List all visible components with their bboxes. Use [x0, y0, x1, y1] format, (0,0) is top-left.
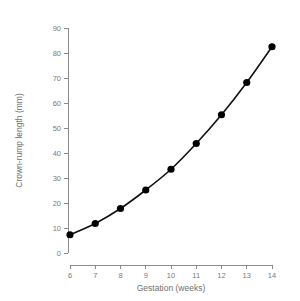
y-axis-tick-label: 90 — [53, 24, 61, 33]
x-axis-tick-label: 12 — [217, 271, 225, 280]
data-point-marker: 12 weeks, 55.3 mm — [218, 111, 225, 118]
data-point-marker: 7 weeks, 11.8 mm — [92, 220, 99, 227]
x-axis-tick-label: 10 — [167, 271, 175, 280]
y-axis-tick-label: 70 — [53, 74, 61, 83]
x-axis-tick-label: 14 — [268, 271, 276, 280]
y-axis-tick-label: 50 — [53, 124, 61, 133]
chart-container: 010203040506070809067891011121314Gestati… — [0, 0, 300, 301]
y-axis-tick-label: 30 — [53, 174, 61, 183]
data-point-marker: 13 weeks, 68.2 mm — [243, 79, 250, 86]
data-point-marker: 10 weeks, 33.5 mm — [167, 166, 174, 173]
y-axis-tick-label: 0 — [57, 249, 61, 258]
x-axis-tick-label: 13 — [243, 271, 251, 280]
x-axis-tick-label: 9 — [144, 271, 148, 280]
data-series-line — [70, 47, 272, 235]
x-axis-tick-label: 8 — [118, 271, 122, 280]
y-axis-tick-label: 80 — [53, 49, 61, 58]
data-point-marker: 6 weeks, 7.3 mm — [66, 231, 73, 238]
data-point-marker: 8 weeks, 17.8 mm — [117, 205, 124, 212]
y-axis-tick-label: 20 — [53, 199, 61, 208]
line-chart: 010203040506070809067891011121314Gestati… — [0, 0, 300, 301]
x-axis-tick-label: 7 — [93, 271, 97, 280]
x-axis-tick-label: 6 — [68, 271, 72, 280]
x-axis-title: Gestation (weeks) — [137, 283, 206, 293]
data-point-marker: 14 weeks, 82.5 mm — [268, 43, 275, 50]
x-axis: 67891011121314 — [68, 265, 276, 280]
y-axis-tick-label: 60 — [53, 99, 61, 108]
data-point-marker: 11 weeks, 43.8 mm — [193, 140, 200, 147]
y-axis-title: Crown-rump length (mm) — [14, 93, 24, 188]
y-axis-tick-label: 40 — [53, 149, 61, 158]
x-axis-tick-label: 11 — [192, 271, 200, 280]
y-axis: 0102030405060708090 — [53, 24, 68, 258]
data-point-marker: 9 weeks, 25.2 mm — [142, 186, 149, 193]
y-axis-tick-label: 10 — [53, 224, 61, 233]
